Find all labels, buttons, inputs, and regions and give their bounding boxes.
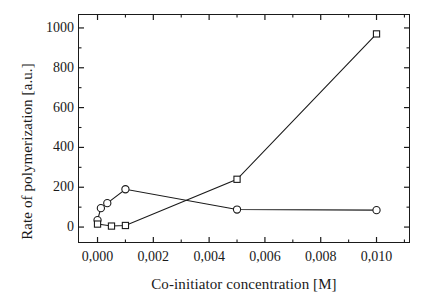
series-line	[98, 34, 377, 226]
data-point-square	[373, 31, 379, 37]
data-point-circle	[97, 205, 104, 212]
chart-figure: Rate of polymerization [a.u.] Co-initiat…	[0, 0, 429, 303]
data-point-square	[94, 221, 100, 227]
data-point-circle	[233, 206, 240, 213]
data-series-layer	[94, 31, 380, 229]
tick-marks-layer	[78, 14, 410, 243]
data-point-square	[122, 222, 128, 228]
data-point-circle	[122, 186, 129, 193]
plot-canvas	[0, 0, 429, 303]
data-point-square	[108, 223, 114, 229]
data-point-square	[234, 176, 240, 182]
data-point-circle	[104, 200, 111, 207]
data-point-circle	[373, 207, 380, 214]
series-line	[98, 189, 377, 220]
series-circle-series	[94, 186, 380, 224]
series-square-series	[94, 31, 379, 229]
